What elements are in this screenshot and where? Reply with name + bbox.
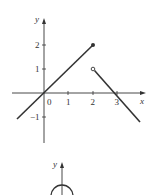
- y-tick-label-1: 1: [35, 64, 40, 74]
- x-axis-label: x: [139, 96, 144, 106]
- figure: y x 0 1 2 3 2 1 −1 y: [0, 0, 148, 195]
- y-axis-arrow-icon: [42, 18, 46, 24]
- x-axis-arrow-icon: [140, 91, 146, 95]
- y-tick-label-m1: −1: [30, 112, 40, 122]
- x-tick-label-3: 3: [115, 97, 120, 107]
- y-axis-2-arrow-icon: [60, 162, 64, 168]
- x-tick-label-0: 0: [47, 97, 52, 107]
- y-axis-label: y: [34, 14, 39, 24]
- segment-1-line: [17, 45, 93, 119]
- closed-endpoint: [91, 43, 95, 47]
- x-tick-label-1: 1: [66, 97, 71, 107]
- y-axis-2-label: y: [52, 159, 57, 169]
- open-endpoint: [91, 67, 95, 71]
- y-tick-label-2: 2: [35, 40, 40, 50]
- x-tick-label-2: 2: [91, 97, 96, 107]
- graph-1: [12, 18, 146, 143]
